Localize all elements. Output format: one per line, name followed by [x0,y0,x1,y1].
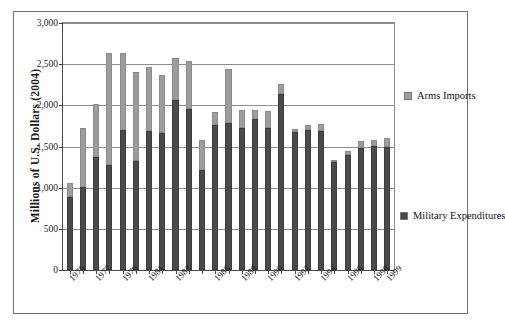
legend-label-military-expenditures: Military Expenditures [413,210,505,221]
bar-segment-military-expenditures [239,128,245,270]
bar-segment-arms-imports [133,72,139,161]
bar-segment-military-expenditures [172,100,178,270]
bar-stack [80,128,86,270]
y-axis-tick-mark [59,270,63,271]
bar-segment-military-expenditures [358,148,364,270]
bar-stack [371,140,377,270]
bar-segment-military-expenditures [225,123,231,270]
bar-stack [106,53,112,270]
bar-segment-arms-imports [67,183,73,197]
y-axis-tick-label: 2,500 [37,59,58,69]
bar-segment-arms-imports [146,67,152,131]
bar-stack [239,110,245,270]
bar-segment-military-expenditures [67,197,73,270]
bar-stack [199,140,205,270]
bar-series-group [63,23,394,270]
x-axis-tick-mark [162,270,163,274]
bar-segment-arms-imports [106,53,112,166]
bar-segment-military-expenditures [146,131,152,270]
bar-segment-military-expenditures [345,155,351,270]
bar-segment-arms-imports [225,69,231,123]
legend-swatch-arms-imports [404,92,412,100]
bar-segment-arms-imports [252,110,258,119]
bar-segment-military-expenditures [265,128,271,270]
bar-segment-arms-imports [239,110,245,127]
bar-segment-military-expenditures [80,187,86,270]
bar-segment-arms-imports [172,58,178,101]
legend-swatch-military-expenditures [400,212,408,220]
bar-segment-military-expenditures [186,109,192,270]
bar-stack [278,84,284,270]
bar-segment-arms-imports [265,111,271,127]
x-axis-tick-mark [281,270,282,274]
bar-stack [305,125,311,270]
x-axis-tick-mark [189,270,190,274]
x-axis-tick-mark [136,270,137,274]
bar-stack [212,112,218,270]
bar-segment-military-expenditures [278,94,284,270]
chart-figure: Millions of U.S. Dollars (2004) 05001,00… [13,11,468,314]
bar-segment-arms-imports [159,75,165,133]
bar-segment-arms-imports [120,53,126,130]
x-axis-tick-mark [229,270,230,274]
bar-stack [172,58,178,270]
x-axis-tick-mark [202,270,203,274]
bar-stack [120,53,126,270]
x-axis-tick-mark [109,270,110,274]
bar-segment-arms-imports [80,128,86,187]
bar-stack [146,67,152,270]
bar-segment-military-expenditures [93,157,99,270]
bar-stack [93,104,99,270]
x-axis-tick-mark [83,270,84,274]
bar-stack [331,160,337,270]
bar-stack [318,124,324,270]
plot-area: 05001,0001,5002,0002,5003,000 1975197719… [62,22,395,271]
bar-segment-arms-imports [186,61,192,109]
bar-stack [67,183,73,270]
bar-stack [159,75,165,270]
x-axis-tick-mark [334,270,335,274]
y-axis-tick-label: 0 [53,265,58,275]
bar-segment-military-expenditures [292,132,298,270]
x-axis-tick-mark [255,270,256,274]
bar-stack [292,129,298,270]
bar-stack [345,151,351,270]
legend-item-arms-imports: Arms Imports [404,90,476,101]
legend-label-arms-imports: Arms Imports [417,90,476,101]
bar-segment-military-expenditures [120,130,126,270]
y-axis-tick-label: 2,000 [37,100,58,110]
bar-stack [252,110,258,270]
bar-stack [384,138,390,270]
x-axis-tick-mark [308,270,309,274]
bar-segment-arms-imports [318,124,324,131]
legend-item-military-expenditures: Military Expenditures [400,210,505,221]
bar-segment-military-expenditures [199,170,205,270]
bar-segment-military-expenditures [212,125,218,270]
bar-segment-military-expenditures [371,146,377,270]
bar-segment-arms-imports [384,138,390,146]
y-axis-tick-label: 1,000 [37,183,58,193]
bar-segment-arms-imports [199,140,205,170]
bar-stack [358,141,364,270]
bar-segment-military-expenditures [331,162,337,270]
bar-stack [186,61,192,270]
bar-segment-military-expenditures [384,147,390,271]
x-axis-tick-mark [361,270,362,274]
bar-stack [265,111,271,270]
bar-segment-arms-imports [93,104,99,158]
y-axis-tick-label: 1,500 [37,142,58,152]
bar-segment-military-expenditures [318,131,324,270]
bar-segment-military-expenditures [106,165,112,270]
bar-segment-military-expenditures [252,119,258,270]
bar-segment-military-expenditures [133,161,139,270]
bar-segment-military-expenditures [305,130,311,270]
bar-segment-arms-imports [358,141,364,148]
bar-segment-arms-imports [212,112,218,125]
bar-segment-military-expenditures [159,133,165,270]
y-axis-tick-label: 500 [44,224,58,234]
bar-segment-arms-imports [278,84,284,94]
y-axis-tick-label: 3,000 [37,18,58,28]
bar-stack [225,69,231,270]
bar-stack [133,72,139,270]
